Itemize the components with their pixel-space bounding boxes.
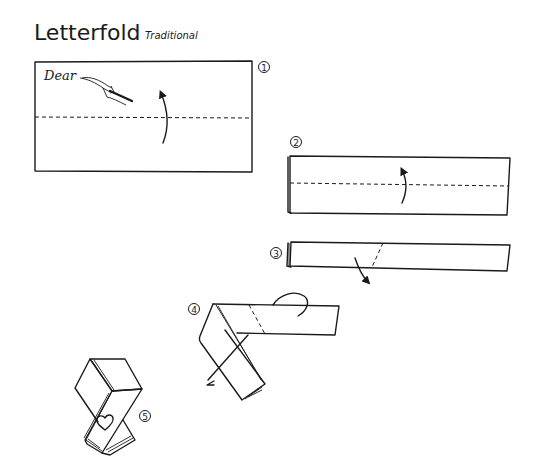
fold-down-arrow xyxy=(355,258,368,282)
top-panel xyxy=(90,359,142,391)
svg-text:1: 1 xyxy=(261,63,267,73)
strip-outline xyxy=(290,156,510,215)
back-strip-edge xyxy=(208,335,248,380)
step-number-4: 4 xyxy=(189,304,200,315)
back-strip-tip xyxy=(207,381,214,385)
fold-behind-line xyxy=(249,305,265,334)
svg-text:3: 3 xyxy=(273,249,279,259)
step-5: 5 xyxy=(75,359,151,455)
left-panel xyxy=(75,359,98,422)
step-number-3: 3 xyxy=(271,248,282,259)
fold-up-arrow xyxy=(402,170,406,203)
heart-icon xyxy=(97,415,113,430)
step-2: 2 xyxy=(288,137,510,216)
origami-diagram: Dear 1 2 xyxy=(0,0,539,475)
svg-text:4: 4 xyxy=(191,305,197,315)
handwriting-dear: Dear xyxy=(43,68,77,83)
step-4: 4 xyxy=(189,293,340,400)
step-3: 3 xyxy=(271,242,511,282)
narrow-strip-outline xyxy=(290,242,510,271)
valley-fold-line xyxy=(290,183,509,186)
valley-fold-line xyxy=(35,117,252,118)
diagonal-fold-line xyxy=(372,243,383,267)
svg-text:2: 2 xyxy=(293,138,299,148)
pen-icon xyxy=(80,77,132,105)
step-1: Dear 1 xyxy=(35,61,270,172)
svg-text:5: 5 xyxy=(142,412,148,422)
step-number-1: 1 xyxy=(259,62,270,73)
step-number-5: 5 xyxy=(140,411,151,422)
step-number-2: 2 xyxy=(291,137,302,148)
